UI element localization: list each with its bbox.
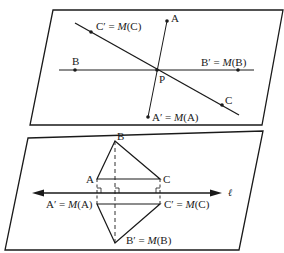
label-bprime: B′ = M(B) [201,56,247,69]
point-cprime-dot [89,30,93,34]
arrow-left-icon [32,190,44,197]
bottom-panel: ℓ B A C A′ = M(A) C′ = M(C) B′ = M(B) [5,130,263,250]
right-angle-mark-a [97,188,101,193]
right-angle-mark-b [115,188,119,193]
point-a-dot [165,19,169,23]
point-bprime-dot [236,68,240,72]
label-c: C [163,173,170,185]
point-c-dot [220,103,224,107]
label-b: B [72,55,79,67]
triangle-abc [97,141,160,179]
right-angle-mark-c [156,188,160,193]
label-cprime: C′ = M(C) [164,198,210,211]
label-p: P [159,73,165,85]
label-aprime: A′ = M(A) [152,111,199,124]
point-b-dot [73,68,77,72]
point-aprime-dot [146,115,150,119]
label-cprime: C′ = M(C) [96,20,142,33]
label-a: A [86,173,94,185]
label-a: A [171,12,179,24]
arrow-right-icon [210,190,222,197]
label-aprime: A′ = M(A) [46,198,93,211]
label-bprime: B′ = M(B) [126,234,172,247]
point-p-dot [155,68,159,72]
top-panel: A B P C C′ = M(C) B′ = M(B) A′ = M(A) [30,10,283,125]
label-c: C [225,94,232,106]
reflection-diagram: A B P C C′ = M(C) B′ = M(B) A′ = M(A) ℓ … [0,0,284,253]
label-line-l: ℓ [228,187,232,198]
label-b: B [117,130,124,142]
